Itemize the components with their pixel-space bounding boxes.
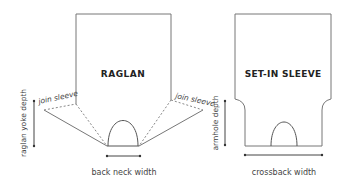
raglan-right-seam <box>139 110 203 146</box>
raglan-join-sleeve-left: join sleeve <box>37 89 80 106</box>
raglan-body-outline <box>76 14 171 104</box>
back-neck-end-right <box>139 155 141 157</box>
raglan-left-dashed-top <box>44 104 76 110</box>
armhole-depth-end-bottom <box>224 144 226 146</box>
crossback-end-right <box>321 154 323 156</box>
raglan-neck-arch <box>108 121 138 147</box>
armhole-depth-end-top <box>224 100 226 102</box>
back-neck-width-label: back neck width <box>91 168 156 177</box>
armhole-depth-label: armhole depth <box>211 95 220 150</box>
yoke-depth-end-bottom <box>33 145 35 147</box>
setin-body-outline <box>235 14 331 146</box>
raglan-right-dashed <box>139 100 171 146</box>
sweater-construction-diagram: RAGLAN join sleeve join sleeve raglan yo… <box>0 0 348 184</box>
raglan-diagram: RAGLAN join sleeve join sleeve raglan yo… <box>19 14 216 177</box>
setin-diagram: SET-IN SLEEVE armhole depth crossback wi… <box>211 14 331 177</box>
setin-title: SET-IN SLEEVE <box>245 69 322 79</box>
setin-neck-arch <box>271 122 297 146</box>
back-neck-end-left <box>106 155 108 157</box>
raglan-left-seam <box>44 110 107 146</box>
yoke-depth-end-top <box>33 100 35 102</box>
raglan-title: RAGLAN <box>101 69 146 79</box>
crossback-end-left <box>244 154 246 156</box>
raglan-yoke-depth-label: raglan yoke depth <box>19 89 28 157</box>
raglan-join-sleeve-right: join sleeve <box>174 91 217 108</box>
crossback-width-label: crossback width <box>252 168 316 177</box>
raglan-left-dashed <box>76 104 107 146</box>
